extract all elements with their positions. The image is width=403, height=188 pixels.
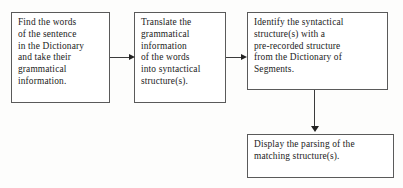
flowchart-edge-find-to-translate-line	[110, 57, 130, 58]
flowchart-edge-translate-to-identify-line	[226, 57, 242, 58]
flowchart-edge-identify-to-display-line	[314, 90, 315, 128]
flowchart-node-translate-grammatical-information-text: Translate the grammatical information of…	[141, 17, 220, 88]
flowchart-node-identify-syntactical-structure: Identify the syntactical structure(s) wi…	[247, 12, 388, 90]
flowchart-edge-identify-to-display-arrowhead-icon	[311, 126, 319, 132]
flowchart-canvas: Find the words of the sentence in the Di…	[0, 0, 403, 188]
flowchart-node-identify-syntactical-structure-text: Identify the syntactical structure(s) wi…	[254, 17, 382, 76]
flowchart-node-translate-grammatical-information: Translate the grammatical information of…	[134, 12, 226, 103]
flowchart-edge-find-to-translate-arrowhead-icon	[129, 54, 135, 60]
flowchart-node-display-parsing-text: Display the parsing of the matching stru…	[254, 139, 388, 163]
flowchart-node-find-words-text: Find the words of the sentence in the Di…	[18, 17, 104, 88]
flowchart-edge-translate-to-identify-arrowhead-icon	[241, 54, 247, 60]
flowchart-node-display-parsing: Display the parsing of the matching stru…	[247, 134, 394, 178]
flowchart-node-find-words: Find the words of the sentence in the Di…	[11, 12, 110, 103]
